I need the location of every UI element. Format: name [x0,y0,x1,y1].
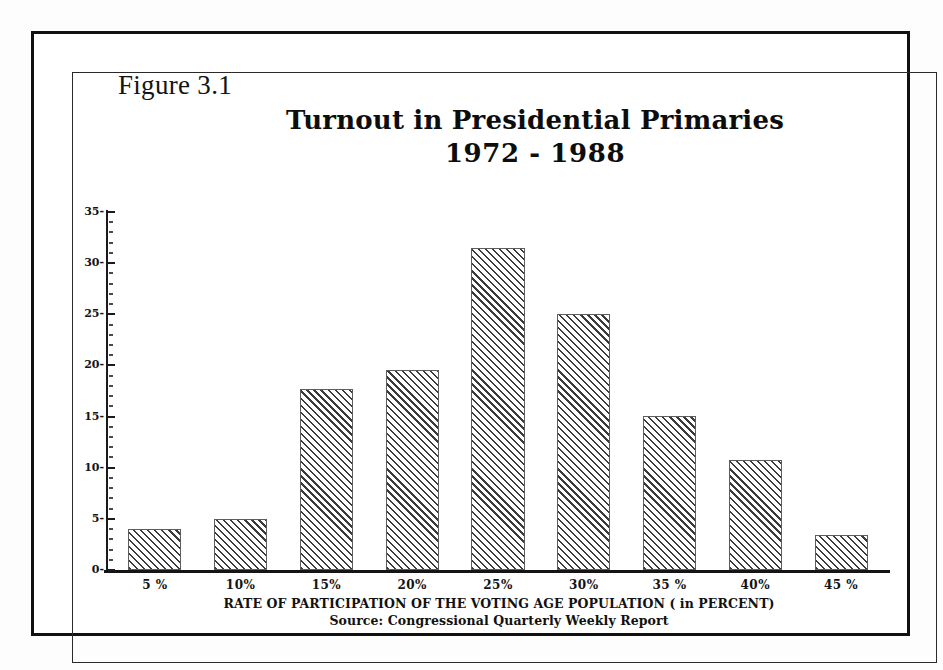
bar [214,519,267,570]
x-axis-tick-label: 10% [206,578,276,592]
x-axis-line [104,570,890,573]
x-axis-title: RATE OF PARTICIPATION OF THE VOTING AGE … [104,596,894,611]
x-axis-tick-label: 25% [463,578,533,592]
scanned-page-background: Figure 3.1 Turnout in Presidential Prima… [0,0,943,670]
x-axis-tick-label: 20% [377,578,447,592]
x-axis-tick-label: 35 % [635,578,705,592]
bar [815,535,868,570]
x-axis-tick-label: 5 % [120,578,190,592]
x-axis-tick-label: 45 % [806,578,876,592]
bar [557,314,610,570]
source-note: Source: Congressional Quarterly Weekly R… [104,613,894,628]
bar [643,416,696,570]
bar [729,460,782,570]
bar [386,370,439,570]
bar-series [0,212,943,570]
x-axis-tick-label: 40% [720,578,790,592]
bar [128,529,181,570]
bar [300,389,353,570]
x-axis-tick-label: 15% [291,578,361,592]
chart-plot-area: 0-5-10-15-20-25-30-35- 5 %10%15%20%25%30… [0,0,943,670]
bar [471,248,524,570]
x-axis-tick-label: 30% [549,578,619,592]
